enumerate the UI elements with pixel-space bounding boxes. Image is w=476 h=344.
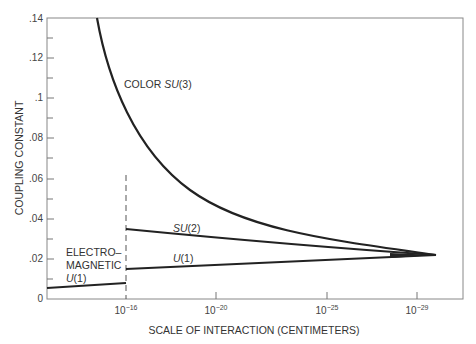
svg-text:MAGNETIC: MAGNETIC bbox=[66, 259, 122, 271]
coupling-constant-chart: 0 .02 .04 .06 .08 .1 .12 .14 COUPLING CO… bbox=[0, 0, 476, 344]
y-tick-label: .02 bbox=[29, 253, 43, 264]
series-electromagnetic-line bbox=[47, 283, 126, 288]
y-tick-label: .14 bbox=[29, 13, 43, 24]
x-tick-labels: 10−16 10−20 10−25 10−29 bbox=[115, 304, 429, 316]
y-tick-label: 0 bbox=[37, 293, 43, 304]
x-axis bbox=[216, 292, 417, 299]
x-tick-label: 10−16 bbox=[115, 304, 138, 316]
label-electromagnetic-u1: ELECTRO– MAGNETIC U(1) bbox=[66, 246, 122, 284]
y-axis bbox=[47, 38, 54, 279]
y-tick-label: .06 bbox=[29, 173, 43, 184]
svg-text:ELECTRO–: ELECTRO– bbox=[66, 246, 122, 258]
y-tick-labels: 0 .02 .04 .06 .08 .1 .12 .14 bbox=[29, 13, 43, 304]
y-tick-label: .1 bbox=[35, 92, 44, 103]
x-axis-title: SCALE OF INTERACTION (CENTIMETERS) bbox=[148, 324, 359, 336]
y-tick-label: .04 bbox=[29, 213, 43, 224]
series-su3-curve bbox=[97, 18, 436, 255]
svg-text:U(1): U(1) bbox=[66, 272, 86, 284]
x-tick-label: 10−25 bbox=[316, 304, 339, 316]
y-tick-label: .12 bbox=[29, 52, 43, 63]
x-tick-label: 10−20 bbox=[205, 304, 228, 316]
y-tick-label: .08 bbox=[29, 132, 43, 143]
label-color-su3: COLOR SU(3) bbox=[124, 78, 192, 90]
x-tick-label: 10−29 bbox=[406, 304, 429, 316]
label-u1: U(1) bbox=[173, 252, 193, 264]
y-axis-title: COUPLING CONSTANT bbox=[13, 100, 25, 215]
label-su2: SU(2) bbox=[173, 222, 200, 234]
